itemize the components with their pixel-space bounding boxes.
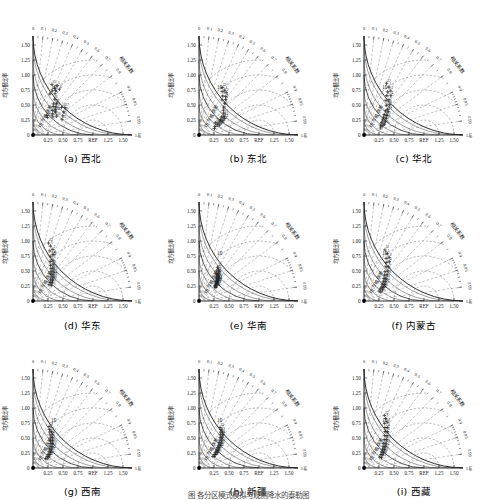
taylor-panel-g: 00.10.20.30.40.50.60.70.80.90.950.991.0相… [0, 333, 166, 499]
corr-tick-label: 0.2 [382, 360, 388, 366]
data-point-label: 4 [392, 91, 394, 95]
x-tick-label: 0.50 [224, 470, 233, 476]
taylor-panel-a: 00.10.20.30.40.50.60.70.80.90.950.991.0相… [0, 0, 166, 166]
x-tick-label: 1.50 [450, 304, 459, 310]
corr-tick-label: 0.95 [462, 263, 469, 273]
corr-tick-label: 0.4 [72, 34, 80, 41]
y-tick-label: 1.00 [187, 404, 196, 410]
polar-grid [364, 36, 463, 135]
figure-caption: 图 各分区模式模拟与观测降水的泰勒图 [0, 489, 497, 500]
x-tick-label: REF [420, 470, 429, 476]
corr-tick-label: 0.9 [457, 417, 464, 425]
y-tick-label: 1.50 [352, 374, 361, 380]
correlation-spokes [33, 36, 131, 135]
y-tick-label: 1.25 [352, 57, 361, 63]
taylor-panel-f: 00.10.20.30.40.50.60.70.80.90.950.991.0相… [331, 166, 497, 332]
corr-tick-label: 0.95 [462, 430, 469, 440]
x-tick-label: REF [420, 137, 429, 143]
y-tick-label: 1.50 [21, 42, 30, 48]
corr-tick-label: 0.3 [62, 196, 69, 203]
corr-tick-label: 0.1 [206, 192, 212, 198]
ref-marker [31, 133, 35, 137]
corr-endpoint-label: 1.0 [466, 133, 472, 138]
panel-annotation: 10 [382, 84, 388, 90]
corr-tick-label: 0.99 [301, 448, 307, 457]
corr-tick-label: 0 [32, 192, 35, 197]
x-tick-label: 1.25 [104, 137, 113, 143]
corr-tick-label: 0 [197, 192, 200, 197]
corr-endpoint-label: 1.0 [300, 299, 306, 304]
corr-tick-label: 0.1 [41, 192, 47, 198]
polar-grid [199, 36, 298, 135]
corr-tick-label: 0.7 [104, 221, 112, 229]
corr-tick-label: 0.7 [435, 221, 443, 229]
y-tick-label: 0.50 [352, 434, 361, 440]
corr-tick-label: 0.2 [51, 360, 57, 366]
y-tick-label: 0.25 [21, 449, 30, 455]
y-tick-label: 0.75 [187, 87, 196, 93]
y-tick-label: 0.75 [21, 87, 30, 93]
x-tick-label: 0.75 [74, 137, 83, 143]
corr-tick-label: 0.1 [206, 358, 212, 364]
y-axis-ticks: 0.250.500.751.001.251.50 [21, 42, 36, 123]
y-tick-label: 0.50 [187, 268, 196, 274]
corr-tick-label: 0.1 [372, 192, 378, 198]
data-point-label: 22 [387, 79, 391, 83]
corr-tick-label: 0.5 [248, 39, 256, 46]
panel-title-b: (b) 东北 [166, 151, 332, 165]
corr-tick-label: 0.7 [270, 221, 278, 229]
corr-tick-label: 0.99 [301, 116, 307, 125]
corr-tick-label: 0.99 [467, 282, 473, 291]
x-tick-label: 0.75 [405, 470, 414, 476]
correlation-spokes [199, 203, 297, 302]
x-tick-label: 0.75 [239, 470, 248, 476]
data-point-label: 22 [222, 83, 226, 87]
ref-marker [362, 299, 366, 303]
y-tick-label: 1.00 [21, 72, 30, 78]
x-tick-label: 0.25 [44, 304, 53, 310]
corr-tick-label: 0.95 [462, 97, 469, 107]
data-point-label: 26 [215, 283, 219, 287]
x-tick-label: REF [254, 470, 263, 476]
corr-tick-label: 0.3 [62, 30, 69, 37]
x-tick-label: 0.50 [390, 304, 399, 310]
x-tick-label: 1.50 [450, 470, 459, 476]
corr-tick-label: 0 [32, 26, 35, 31]
y-axis-label: 均方根比率 [332, 72, 340, 98]
corr-tick-label: 0.95 [131, 430, 138, 440]
x-tick-label: 1.50 [284, 470, 293, 476]
corr-tick-label: 0.2 [217, 27, 223, 33]
y-tick-label: 0.25 [187, 283, 196, 289]
correlation-spokes [364, 203, 462, 302]
correlation-spokes [364, 36, 462, 135]
x-tick-label: 1.50 [119, 304, 128, 310]
x-tick-label: 1.50 [119, 470, 128, 476]
taylor-panel-i: 00.10.20.30.40.50.60.70.80.90.950.991.0相… [331, 333, 497, 499]
corr-tick-label: 0.4 [403, 200, 411, 207]
corr-tick-label: 0.4 [238, 366, 246, 373]
corr-tick-label: 0.7 [435, 388, 443, 396]
data-point-label: 22 [220, 423, 224, 427]
corr-tick-label: 0.5 [248, 371, 256, 378]
panel-annotation: 10 [217, 417, 223, 423]
data-point-label: 2 [53, 245, 55, 249]
corr-endpoint-label: 1.0 [300, 466, 306, 471]
ref-marker [31, 466, 35, 470]
y-tick-label: 0.75 [187, 419, 196, 425]
data-point-label: 24 [48, 113, 52, 117]
x-tick-label: 1.25 [435, 137, 444, 143]
panel-annotation: 10 [382, 417, 388, 423]
data-point-label: 26 [57, 112, 61, 116]
ref-marker [31, 299, 35, 303]
corr-tick-label: 0.8 [280, 400, 288, 408]
corr-tick-label: 0.8 [446, 400, 454, 408]
corr-tick-label: 0.7 [104, 388, 112, 396]
polar-grid [199, 202, 298, 301]
corr-tick-label: 0.8 [115, 67, 123, 75]
y-tick-label: 1.50 [352, 42, 361, 48]
x-tick-label: 0.25 [209, 137, 218, 143]
y-tick-label: 0.75 [187, 253, 196, 259]
ref-marker [197, 466, 201, 470]
data-point-label: 2 [389, 417, 391, 421]
